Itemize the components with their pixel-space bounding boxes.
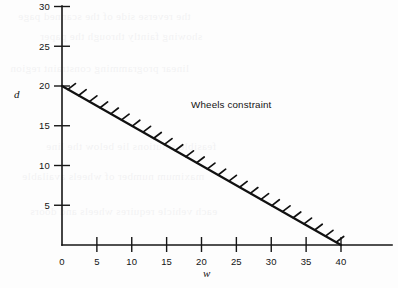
x-tick-label: 30: [266, 256, 277, 267]
hatch-tick: [143, 126, 151, 132]
y-tick-label: 25: [39, 41, 50, 52]
chart-figure: the reverse side of the scanned page sho…: [0, 0, 398, 288]
hatch-tick: [175, 145, 183, 151]
hatch-tick: [218, 169, 226, 175]
x-axis-tick-labels: 0510152025303540: [59, 256, 346, 267]
hatch-tick: [250, 188, 258, 194]
hatch-tick: [132, 120, 140, 126]
y-tick-label: 5: [45, 200, 50, 211]
hatch-tick: [240, 181, 248, 187]
x-tick-label: 35: [301, 256, 312, 267]
chart-annotations: Wheels constraint: [191, 99, 272, 110]
hatch-tick: [197, 157, 205, 163]
hatch-tick: [164, 139, 172, 145]
x-tick-label: 0: [59, 256, 64, 267]
x-tick-label: 40: [336, 256, 347, 267]
hatch-tick: [111, 108, 119, 114]
wheels-constraint-annotation: Wheels constraint: [191, 99, 272, 110]
hatch-tick: [154, 132, 162, 138]
x-tick-label: 15: [161, 256, 172, 267]
x-tick-label: 20: [196, 256, 207, 267]
hatch-tick: [261, 194, 269, 200]
hatch-tick: [122, 114, 130, 120]
hatch-tick: [207, 163, 215, 169]
x-tick-label: 10: [126, 256, 137, 267]
y-tick-label: 15: [39, 120, 50, 131]
hatch-tick: [304, 218, 312, 224]
y-tick-label: 20: [39, 80, 50, 91]
x-axis-label: w: [203, 267, 211, 279]
hatch-tick: [336, 236, 344, 242]
y-tick-label: 10: [39, 160, 50, 171]
hatch-tick: [100, 102, 108, 108]
x-tick-label: 25: [231, 256, 242, 267]
y-axis-tick-labels: 51015202530: [39, 1, 50, 211]
hatch-tick: [186, 151, 194, 157]
hatch-tick: [325, 230, 333, 236]
hatch-tick: [272, 200, 280, 206]
x-axis: 0510152025303540 w: [59, 237, 392, 279]
plot-area: 51015202530 d 0510152025303540 w Wheels …: [0, 0, 398, 288]
hatch-tick: [283, 206, 291, 212]
hatch-tick: [229, 175, 237, 181]
y-axis-label: d: [14, 88, 20, 100]
hatch-tick: [89, 96, 97, 102]
hatch-tick: [79, 90, 87, 96]
hatch-tick: [315, 224, 323, 230]
y-axis: 51015202530 d: [14, 1, 70, 245]
x-tick-label: 5: [94, 256, 99, 267]
y-tick-label: 30: [39, 1, 50, 12]
hatch-tick: [293, 212, 301, 218]
